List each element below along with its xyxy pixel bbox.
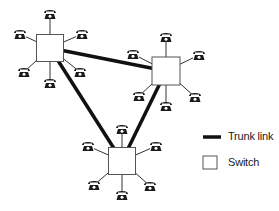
telephone-icon [44, 79, 56, 88]
telephone-icon [116, 191, 128, 200]
trunk-link [50, 48, 166, 71]
network-diagram [0, 0, 279, 211]
telephone-icon [160, 33, 172, 42]
telephone-icon [127, 50, 139, 59]
switches [37, 35, 181, 175]
telephone-icon [133, 92, 145, 101]
legend-switch-swatch [203, 156, 217, 169]
telephone-icon [116, 125, 128, 134]
telephone-icon [14, 30, 26, 39]
telephone-icon [150, 142, 162, 151]
telephone-icon [193, 51, 205, 60]
legend [203, 137, 221, 169]
telephone-icon [76, 30, 88, 39]
trunk-links [50, 48, 166, 161]
legend-switch-label: Switch [228, 156, 259, 168]
switch-bottom [109, 148, 136, 175]
telephone-icon [88, 181, 100, 190]
telephone-icon [74, 68, 86, 77]
telephone-icon [82, 142, 94, 151]
telephone-icon [189, 93, 201, 102]
telephone-icon [18, 68, 30, 77]
switch-right [152, 57, 180, 85]
legend-trunk-link-label: Trunk link [228, 130, 273, 142]
telephone-icon [44, 10, 56, 19]
switch-left [37, 35, 64, 62]
telephone-icon [144, 182, 156, 191]
telephone-icon [160, 102, 172, 111]
